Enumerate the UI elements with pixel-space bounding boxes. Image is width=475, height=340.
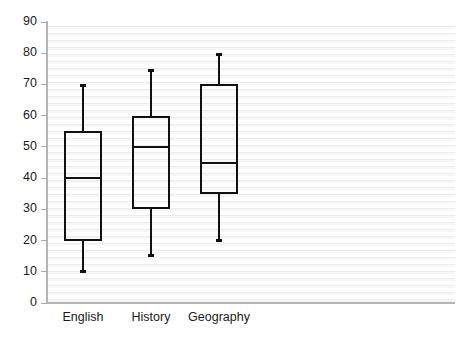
y-tick-label: 20: [7, 234, 37, 247]
plot-area: [47, 22, 455, 303]
y-tick-mark: [41, 209, 47, 210]
y-tick-label: 40: [7, 171, 37, 184]
y-tick-mark: [41, 240, 47, 241]
y-tick-mark: [41, 84, 47, 85]
boxplot-geography: [47, 22, 455, 303]
y-tick-label: 10: [7, 265, 37, 278]
y-axis-line: [46, 21, 48, 304]
boxplot-chart: 0102030405060708090 EnglishHistoryGeogra…: [0, 0, 475, 340]
y-tick-label: 0: [7, 296, 37, 309]
y-tick-mark: [41, 271, 47, 272]
y-tick-mark: [41, 303, 47, 304]
y-tick-mark: [41, 115, 47, 116]
whisker-lower: [218, 194, 220, 241]
y-tick-mark: [41, 53, 47, 54]
y-tick-mark: [41, 22, 47, 23]
y-tick-mark: [41, 146, 47, 147]
median-line: [200, 162, 238, 164]
y-tick-label: 50: [7, 140, 37, 153]
y-tick-label: 60: [7, 109, 37, 122]
y-tick-label: 80: [7, 46, 37, 59]
y-tick-label: 70: [7, 77, 37, 90]
y-tick-label: 30: [7, 202, 37, 215]
x-axis-line: [46, 302, 455, 304]
y-tick-label: 90: [7, 15, 37, 28]
whisker-upper: [218, 53, 220, 84]
whisker-cap-min: [216, 239, 222, 242]
box-iqr: [200, 84, 238, 193]
x-category-label: Geography: [169, 311, 269, 324]
whisker-cap-max: [216, 53, 222, 56]
y-tick-mark: [41, 178, 47, 179]
